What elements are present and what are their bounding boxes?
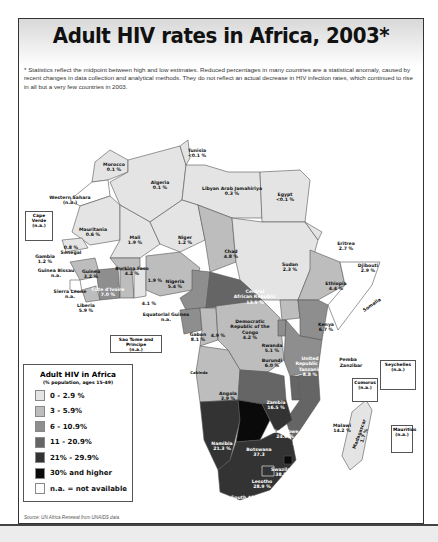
legend-item: 0 - 2.9 % — [24, 388, 132, 404]
legend-title: Adult HIV in Africa — [24, 370, 132, 379]
label-burkina-faso: Burkina Faso4.2 % — [115, 266, 149, 277]
label-guinea-bissau: Guinea Bissaun.a. — [38, 268, 75, 279]
legend-item: n.a. = not available — [24, 481, 132, 497]
label-togo: 4.1 % — [142, 301, 156, 306]
label-tanzania: UnitedRepublic ofTanzania8.8 % — [295, 356, 324, 378]
inset-sao-tome: Sao Tome and Principe(n.a.) — [110, 335, 162, 353]
label-djibouti: Djibouti2.9 % — [358, 263, 378, 274]
label-equatorial-guinea: Equatorial Guinean.a. — [143, 312, 189, 323]
label-south-africa: South Africa21.5 % — [231, 495, 263, 506]
legend-item: 3 - 5.9% — [24, 404, 132, 420]
label-gambia: Gambia1.2 % — [35, 254, 55, 265]
label-zambia: Zambia16.5 % — [266, 400, 285, 411]
label-swaziland: Swaziland38.8 % — [271, 467, 297, 478]
label-zimbabwe: Zimbabwe24.6 % — [272, 429, 299, 440]
legend-item: 21% - 29.9% — [24, 450, 132, 466]
label-mauritania: Mauritania0.6 % — [79, 227, 107, 238]
label-western-sahara: Western Sahara(n.a.) — [49, 195, 90, 206]
label-liberia: Liberia5.9 % — [77, 303, 95, 314]
legend-swatch — [35, 437, 45, 448]
footer-bar — [0, 524, 438, 542]
label-niger: Niger1.2 % — [178, 235, 192, 246]
label-kenya: Kenya6.7 % — [318, 322, 334, 333]
footnote: * Statistics reflect the midpoint betwee… — [24, 66, 414, 91]
label-cabinda: Cabinda — [190, 370, 207, 375]
legend-swatch — [35, 421, 45, 432]
legend-item: 6 - 10.9% — [24, 419, 132, 435]
label-ethiopia: Ethiopia4.4 % — [325, 281, 346, 292]
label-algeria: Algeria0.1 % — [151, 180, 169, 191]
inset-seychelles: Seychelles(n.a.) — [380, 360, 416, 390]
label-sudan: Sudan2.3 % — [282, 262, 298, 273]
source-note: Source: UN Africa Renewal from UNAIDS da… — [24, 515, 120, 520]
label-pemba: Pemba — [339, 357, 357, 362]
label-gabon: Gabon8.1 % — [190, 332, 207, 343]
region-uganda — [280, 300, 300, 320]
label-cote-divoire: Côte d'Ivoire7.0 % — [92, 287, 125, 298]
label-rwanda: Rwanda5.1 % — [262, 343, 283, 354]
label-zanzibar: Zanzibar — [340, 363, 363, 368]
region-rwanda-burundi — [278, 320, 286, 336]
label-benin: 1.9 % — [148, 278, 162, 283]
label-morocco: Morocco0.1 % — [103, 162, 125, 173]
legend-swatch — [35, 452, 45, 463]
label-burundi: Burundi6.0 % — [262, 358, 282, 369]
label-tunisia: Tunisia<0.1 % — [188, 148, 206, 159]
label-drc: DemocraticRepublic of theCongo4.2 % — [230, 319, 269, 341]
legend-swatch — [35, 390, 45, 401]
title-banner: Adult HIV rates in Africa, 2003* — [19, 19, 423, 67]
region-kenya — [298, 300, 328, 340]
label-guinea: Guinea3.2 % — [82, 269, 100, 280]
legend-item: 30% and higher — [24, 466, 132, 482]
label-egypt: Egypt<0.1 % — [276, 192, 294, 203]
legend: Adult HIV in Africa (% population, ages … — [23, 364, 133, 502]
legend-swatch — [35, 483, 45, 494]
label-nigeria: Nigeria5.4 % — [166, 279, 185, 290]
legend-swatch — [35, 468, 45, 479]
region-swaziland — [284, 456, 292, 464]
label-mozambique-value: 12.2 % — [292, 441, 310, 446]
inset-cape-verde: Cape Verde(n.a.) — [25, 211, 53, 241]
label-malawi: Malawi14.2 % — [333, 423, 351, 434]
label-sierra-leone: Sierra Leonen.a. — [54, 289, 87, 300]
label-botswana: Botswana37.3 — [246, 447, 271, 458]
label-congo-value: 4.9 % — [211, 333, 225, 338]
inset-comoros: Comoros(n.a.) — [352, 378, 378, 402]
legend-swatch — [35, 406, 45, 417]
page-title: Adult HIV rates in Africa, 2003* — [39, 23, 403, 48]
legend-subtitle: (% population, ages 15-49) — [24, 380, 132, 385]
label-senegal: 0.8 %Senegal — [61, 245, 82, 256]
label-libya: Libyan Arab Jamahiriya0.3 % — [202, 186, 262, 197]
label-eritrea: Eritrea2.7 % — [337, 241, 355, 252]
legend-item: 11 - 20.9% — [24, 435, 132, 451]
label-angola: Angola3.9 % — [219, 391, 237, 402]
label-mali: Mali1.9 % — [128, 235, 142, 246]
label-car: CentralAfrican Republic13.5 % — [234, 289, 276, 305]
label-namibia: Namibia21.3 % — [211, 441, 232, 452]
label-chad: Chad4.8 % — [224, 249, 238, 260]
inset-mauritius: Mauritius(n.a.) — [391, 425, 413, 453]
label-lesotho: Lesotho28.9 % — [252, 479, 273, 490]
